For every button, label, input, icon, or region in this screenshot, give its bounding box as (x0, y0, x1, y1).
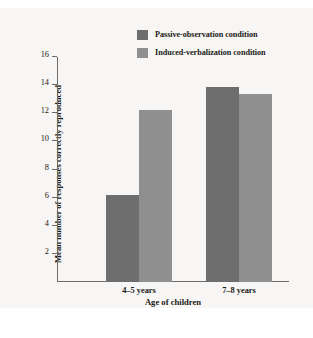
y-axis-tick-label: 16 (41, 50, 49, 59)
y-axis-tick-label: 12 (41, 106, 49, 115)
plot-area: 246810121416 4–5 years7–8 years (57, 57, 289, 282)
bar (239, 94, 272, 282)
x-axis-category-label: 4–5 years (89, 286, 189, 295)
y-axis-tick: 8 (52, 169, 57, 170)
legend-item-passive-observation: Passive-observation condition (137, 28, 307, 41)
legend-swatch-passive-observation (137, 30, 148, 40)
y-axis-tick: 2 (52, 253, 57, 254)
y-axis-tick: 12 (52, 112, 57, 113)
bar (139, 110, 172, 282)
x-axis-category-label: 7–8 years (189, 286, 289, 295)
legend-label-induced-verbalization: Induced-verbalization condition (155, 48, 266, 57)
bar (106, 195, 139, 282)
y-axis-tick: 10 (52, 140, 57, 141)
bar (206, 87, 239, 282)
legend-label-passive-observation: Passive-observation condition (155, 30, 258, 39)
y-axis-tick-label: 14 (41, 78, 49, 87)
y-axis-tick-label: 2 (45, 247, 49, 256)
y-axis-title-container: Mean number of responses correctly repro… (28, 57, 42, 282)
y-axis-tick: 16 (52, 56, 57, 57)
y-axis-tick: 6 (52, 197, 57, 198)
y-axis-tick-label: 10 (41, 134, 49, 143)
y-axis-tick: 4 (52, 225, 57, 226)
y-axis-tick-label: 8 (45, 163, 49, 172)
x-axis-title: Age of children (57, 297, 289, 307)
legend-swatch-induced-verbalization (137, 48, 148, 58)
y-axis-tick-label: 4 (45, 219, 49, 228)
y-axis-line (57, 57, 58, 282)
y-axis-tick: 14 (52, 84, 57, 85)
figure: Passive-observation condition Induced-ve… (0, 0, 313, 338)
y-axis-tick-label: 6 (45, 191, 49, 200)
